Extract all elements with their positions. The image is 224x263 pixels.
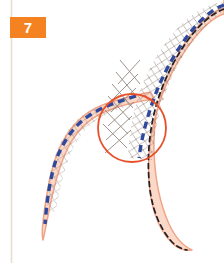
stent-mesh <box>30 0 224 263</box>
step-number-badge: 7 <box>10 17 46 38</box>
figure-container: 7 <box>0 0 224 263</box>
step-number-label: 7 <box>24 20 32 35</box>
bifurcation-stent-illustration <box>0 0 224 263</box>
